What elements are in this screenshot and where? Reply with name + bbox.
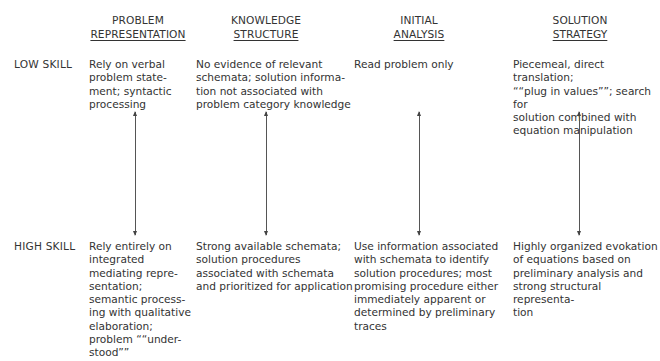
high-skill-knowledge-structure: Strong available schemata; solution proc… bbox=[196, 240, 353, 293]
header-line1: PROBLEM bbox=[88, 14, 188, 28]
double-arrow-icon bbox=[579, 112, 580, 235]
header-line1: INITIAL bbox=[369, 14, 469, 28]
column-header-problem-representation: PROBLEM REPRESENTATION bbox=[88, 14, 188, 41]
double-arrow-icon bbox=[419, 112, 420, 235]
row-label-high-skill: HIGH SKILL bbox=[14, 240, 75, 253]
header-line2: STRATEGY bbox=[530, 28, 630, 42]
header-line1: KNOWLEDGE bbox=[216, 14, 316, 28]
column-header-solution-strategy: SOLUTION STRATEGY bbox=[530, 14, 630, 41]
high-skill-solution-strategy: Highly organized evokation of equations … bbox=[513, 240, 660, 320]
column-header-initial-analysis: INITIAL ANALYSIS bbox=[369, 14, 469, 41]
double-arrow-icon bbox=[266, 112, 267, 235]
high-skill-initial-analysis: Use information associated with schemata… bbox=[354, 240, 498, 333]
row-label-low-skill: LOW SKILL bbox=[14, 58, 72, 71]
header-line1: SOLUTION bbox=[530, 14, 630, 28]
double-arrow-icon bbox=[135, 112, 136, 235]
high-skill-problem-representation: Rely entirely on integrated mediating re… bbox=[89, 240, 191, 360]
column-header-knowledge-structure: KNOWLEDGE STRUCTURE bbox=[216, 14, 316, 41]
header-line2: STRUCTURE bbox=[216, 28, 316, 42]
header-line2: ANALYSIS bbox=[369, 28, 469, 42]
low-skill-knowledge-structure: No evidence of relevant schemata; soluti… bbox=[196, 58, 351, 111]
low-skill-problem-representation: Rely on verbal problem state- ment; synt… bbox=[89, 58, 172, 111]
low-skill-solution-strategy: Piecemeal, direct translation; ““plug in… bbox=[513, 58, 660, 138]
header-line2: REPRESENTATION bbox=[88, 28, 188, 42]
low-skill-initial-analysis: Read problem only bbox=[354, 58, 454, 71]
